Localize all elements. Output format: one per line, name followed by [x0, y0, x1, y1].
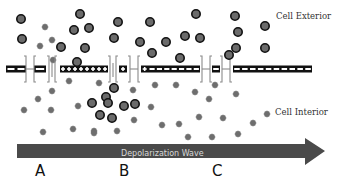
anion-icon	[264, 111, 270, 117]
negative-charge-icon	[179, 68, 184, 70]
diagram-canvas	[0, 0, 337, 190]
anion-icon	[49, 88, 55, 94]
anion-icon	[35, 96, 41, 102]
depolarization-wave-label: Depolarization Wave	[121, 149, 204, 158]
cation-icon	[81, 44, 89, 52]
anion-icon	[131, 117, 137, 123]
anion-icon	[37, 43, 43, 49]
membrane-segment	[6, 66, 26, 73]
membrane-segment	[60, 66, 108, 73]
cation-icon	[114, 18, 122, 26]
cation-icon	[225, 51, 233, 59]
membrane-segment	[141, 66, 200, 73]
negative-charge-icon	[8, 68, 15, 70]
anion-icon	[212, 82, 218, 88]
membrane-segment	[212, 66, 220, 73]
stage-label-c: C	[212, 164, 222, 179]
anion-icon	[130, 87, 136, 93]
anion-icon	[96, 80, 102, 86]
negative-charge-icon	[289, 68, 295, 70]
cell-interior-label: Cell Interior	[275, 107, 328, 117]
anion-icon	[91, 130, 97, 136]
anion-icon	[148, 104, 154, 110]
ion-channel-closed	[24, 56, 36, 82]
anion-icon	[209, 134, 215, 140]
cation-icon	[146, 18, 154, 26]
membrane-segment	[119, 66, 127, 73]
negative-charge-icon	[149, 68, 154, 70]
cation-icon	[261, 44, 269, 52]
negative-charge-icon	[250, 68, 256, 70]
cation-icon	[261, 22, 269, 30]
membrane-segment	[233, 66, 312, 73]
anion-icon	[42, 24, 48, 30]
anion-icon	[152, 82, 158, 88]
negative-charge-icon	[172, 68, 177, 70]
stage-label-b: B	[119, 164, 129, 179]
cation-icon	[192, 10, 200, 18]
anion-icon	[40, 129, 46, 135]
depolarization-diagram: Cell Exterior Cell Interior Depolarizati…	[0, 0, 337, 190]
cation-icon	[148, 49, 156, 57]
cation-icon	[110, 34, 118, 42]
negative-charge-icon	[234, 68, 240, 70]
negative-charge-icon	[157, 68, 162, 70]
ion-channel-closed	[220, 56, 232, 82]
anion-icon	[206, 96, 212, 102]
negative-charge-icon	[282, 68, 288, 70]
cation-icon	[120, 102, 128, 110]
cation-icon	[136, 38, 144, 46]
cation-icon	[181, 32, 189, 40]
cation-icon	[96, 111, 104, 119]
anion-icon	[48, 107, 54, 113]
cation-icon	[76, 10, 84, 18]
negative-charge-icon	[213, 68, 219, 70]
negative-charge-icon	[36, 68, 44, 70]
anion-icon	[250, 120, 256, 126]
cation-icon	[231, 12, 239, 20]
ion-channel-closed	[200, 56, 212, 82]
cation-icon	[104, 99, 112, 107]
anion-icon	[173, 82, 179, 88]
negative-charge-icon	[266, 68, 272, 70]
negative-charge-icon	[18, 68, 25, 70]
cation-icon	[162, 38, 170, 46]
cation-icon	[85, 24, 93, 32]
cation-icon	[232, 44, 240, 52]
negative-charge-icon	[258, 68, 264, 70]
stage-label-a: A	[35, 164, 45, 179]
cation-icon	[70, 26, 78, 34]
anion-icon	[196, 114, 202, 120]
cation-icon	[110, 84, 118, 92]
anion-icon	[185, 134, 191, 140]
negative-charge-icon	[242, 68, 248, 70]
ion-channels	[24, 56, 232, 82]
membrane-segment	[34, 66, 46, 73]
cation-icon	[196, 34, 204, 42]
negative-charge-icon	[274, 68, 280, 70]
cation-icon	[18, 35, 26, 43]
anion-icon	[220, 115, 226, 121]
cell-exterior-label: Cell Exterior	[276, 11, 331, 21]
cation-icon	[131, 100, 139, 108]
anion-icon	[192, 89, 198, 95]
cation-icon	[73, 58, 81, 66]
anion-icon	[21, 107, 27, 113]
cation-icon	[57, 43, 65, 51]
anion-icon	[235, 131, 241, 137]
anion-icon	[159, 122, 165, 128]
negative-charge-icon	[164, 68, 169, 70]
negative-charge-icon	[194, 68, 199, 70]
negative-charge-icon	[305, 68, 311, 70]
ion-channel-open	[108, 56, 118, 82]
cation-icon	[17, 15, 25, 23]
cation-icon	[176, 54, 184, 62]
negative-charge-icon	[297, 68, 303, 70]
anion-icon	[176, 121, 182, 127]
anion-icon	[114, 128, 120, 134]
cation-icon	[108, 114, 116, 122]
anion-icon	[49, 37, 55, 43]
anion-icon	[233, 91, 239, 97]
anion-icon	[66, 78, 72, 84]
ion-channel-closed	[128, 56, 140, 82]
